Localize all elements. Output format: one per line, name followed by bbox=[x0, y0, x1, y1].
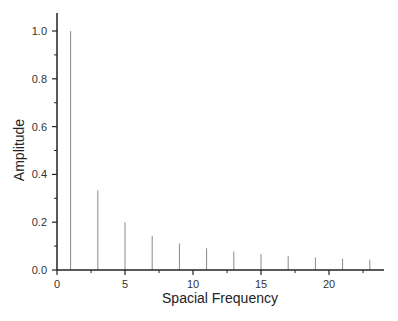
x-tick-label: 10 bbox=[187, 278, 199, 290]
y-axis-title: Amplitude bbox=[11, 119, 27, 181]
y-tick-label: 0.6 bbox=[32, 121, 47, 133]
x-tick-label: 0 bbox=[54, 278, 60, 290]
y-tick-label: 0.2 bbox=[32, 216, 47, 228]
stem-series bbox=[71, 31, 370, 270]
x-tick-label: 20 bbox=[323, 278, 335, 290]
y-axis-ticks: 0.00.20.40.60.81.0 bbox=[32, 25, 57, 276]
x-axis-title: Spacial Frequency bbox=[162, 290, 278, 306]
x-tick-label: 5 bbox=[122, 278, 128, 290]
axes bbox=[57, 13, 384, 270]
y-tick-label: 0.0 bbox=[32, 264, 47, 276]
x-tick-label: 15 bbox=[255, 278, 267, 290]
x-axis-ticks: 05101520 bbox=[54, 270, 363, 290]
y-tick-label: 0.8 bbox=[32, 73, 47, 85]
y-tick-label: 1.0 bbox=[32, 25, 47, 37]
y-tick-label: 0.4 bbox=[32, 168, 47, 180]
spectrum-chart: 0.00.20.40.60.81.0 05101520 Spacial Freq… bbox=[0, 0, 398, 321]
